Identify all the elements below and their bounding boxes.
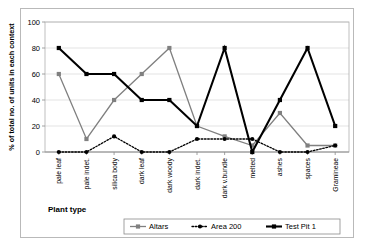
data-point — [57, 72, 61, 76]
legend-label: Test Pit 1 — [285, 222, 316, 231]
data-point — [57, 46, 61, 50]
series-altars — [57, 46, 338, 148]
x-axis-category-label: pale indet. — [83, 158, 91, 189]
data-point — [305, 46, 309, 50]
x-axis-category-label: dark indet. — [194, 158, 201, 190]
data-point — [278, 150, 282, 154]
x-axis-category-label: dark leaf — [138, 158, 145, 184]
legend-label: Area 200 — [211, 222, 241, 231]
data-point — [84, 150, 88, 154]
data-point — [112, 72, 116, 76]
data-point — [305, 150, 309, 154]
data-point — [167, 150, 171, 154]
chart-legend: AltarsArea 200Test Pit 1 — [124, 219, 340, 234]
data-point — [333, 143, 337, 147]
series-line — [59, 48, 335, 146]
data-point — [333, 124, 337, 128]
y-axis-tick-label: 100 — [27, 18, 40, 27]
y-axis-tick-label: 0 — [36, 148, 40, 157]
data-point — [84, 72, 88, 76]
data-point — [250, 150, 254, 154]
data-point — [278, 98, 282, 102]
y-axis-title: % of total no. of units in each context — [7, 23, 16, 151]
data-point — [112, 134, 116, 138]
data-point — [140, 72, 144, 76]
data-point — [167, 98, 171, 102]
data-point — [195, 124, 199, 128]
x-axis-category-label: spaces — [304, 157, 312, 179]
y-axis-ticks — [42, 22, 45, 152]
line-chart: 020406080100 pale leafpale indet.silica … — [0, 0, 374, 249]
x-axis-category-label: pale leaf — [55, 158, 63, 184]
x-axis-category-label: dark v.bundle — [221, 158, 228, 199]
x-axis-category-label: silica body — [111, 157, 119, 189]
x-axis-title: Plant type — [48, 205, 87, 214]
data-point — [167, 46, 171, 50]
legend-marker — [272, 224, 276, 228]
data-point — [140, 150, 144, 154]
y-axis-tick-labels: 020406080100 — [27, 18, 40, 157]
data-point — [223, 46, 227, 50]
data-point — [278, 111, 282, 115]
x-axis-category-label: dark woody — [166, 157, 174, 192]
legend-marker — [198, 224, 202, 228]
series-area-200 — [57, 134, 338, 154]
x-axis-category-label: Gramineae — [332, 158, 339, 192]
data-point — [57, 150, 61, 154]
y-axis-tick-label: 40 — [32, 96, 40, 105]
y-axis-tick-label: 20 — [32, 122, 40, 131]
legend-marker — [136, 224, 140, 228]
data-point — [195, 137, 199, 141]
x-axis-category-label: ashes — [276, 157, 283, 176]
x-axis-ticks — [59, 152, 335, 155]
data-point — [305, 143, 309, 147]
data-point — [112, 98, 116, 102]
data-point — [250, 137, 254, 141]
x-axis-category-label: melted — [249, 158, 256, 179]
x-axis-category-labels: pale leafpale indet.silica bodydark leaf… — [55, 157, 338, 198]
data-point — [223, 137, 227, 141]
legend-label: Altars — [149, 222, 168, 231]
data-point — [84, 137, 88, 141]
y-axis-tick-label: 80 — [32, 44, 40, 53]
data-point — [140, 98, 144, 102]
y-axis-tick-label: 60 — [32, 70, 40, 79]
